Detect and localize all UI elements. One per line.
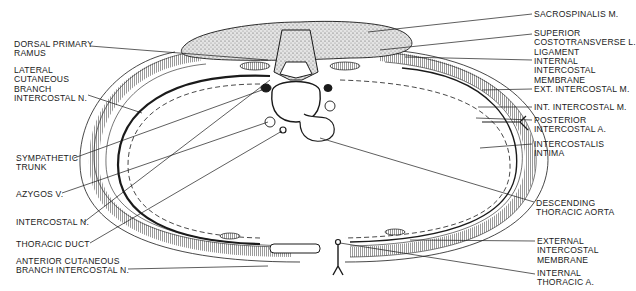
label-int-intercostal-m: INT. INTERCOSTAL M.: [534, 103, 627, 112]
label-intercostal-n: INTERCOSTAL N.: [16, 218, 89, 227]
descending-aorta: [300, 114, 334, 141]
label-intercostalis-intima: INTERCOSTALIS INTIMA: [534, 140, 604, 159]
sternum: [270, 244, 320, 253]
label-lateral-cutaneous-branch: LATERAL CUTANEOUS BRANCH INTERCOSTAL N.: [14, 66, 87, 104]
label-anterior-cutaneous-branch: ANTERIOR CUTANEOUS BRANCH INTERCOSTAL N.: [16, 257, 129, 276]
thoracic-duct-circle: [280, 127, 286, 133]
sympathetic-ganglion-right: [324, 85, 332, 92]
label-azygos-v: AZYGOS V.: [16, 190, 63, 199]
label-superior-costotransverse-ligament: SUPERIOR COSTOTRANSVERSE L. LIGAMENT: [534, 29, 636, 57]
internal-thoracic-artery: [336, 240, 341, 245]
label-internal-intercostal-membrane: INTERNAL INTERCOSTAL MEMBRANE: [534, 57, 596, 85]
label-external-intercostal-membrane: EXTERNAL INTERCOSTAL MEMBRANE: [537, 237, 599, 265]
label-internal-thoracic-a: INTERNAL THORACIC A.: [537, 269, 594, 288]
thoracic-wall: [80, 50, 548, 262]
label-sympathetic-trunk: SYMPATHETIC TRUNK: [16, 154, 78, 173]
label-dorsal-primary-ramus: DORSAL PRIMARY RAMUS: [14, 40, 93, 59]
label-ext-intercostal-m: EXT. INTERCOSTAL M.: [534, 85, 629, 94]
sympathetic-ganglion-left: [261, 84, 271, 92]
label-sacrospinalis-m: SACROSPINALIS M.: [534, 10, 618, 19]
label-descending-thoracic-aorta: DESCENDING THORACIC AORTA: [536, 199, 614, 218]
azygos-vein: [265, 117, 275, 127]
label-thoracic-duct: THORACIC DUCT: [16, 240, 90, 249]
label-posterior-intercostal-a: POSTERIOR INTERCOSTAL A.: [534, 116, 606, 135]
vertebra: [272, 30, 321, 122]
